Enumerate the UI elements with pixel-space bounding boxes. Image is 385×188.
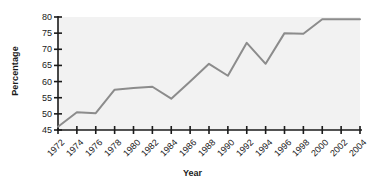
- plot-area: [0, 0, 385, 188]
- line-chart: Percentage 4550556065707580 197219741976…: [0, 0, 385, 188]
- plot-background: [58, 17, 360, 130]
- x-axis-label: Year: [0, 168, 385, 178]
